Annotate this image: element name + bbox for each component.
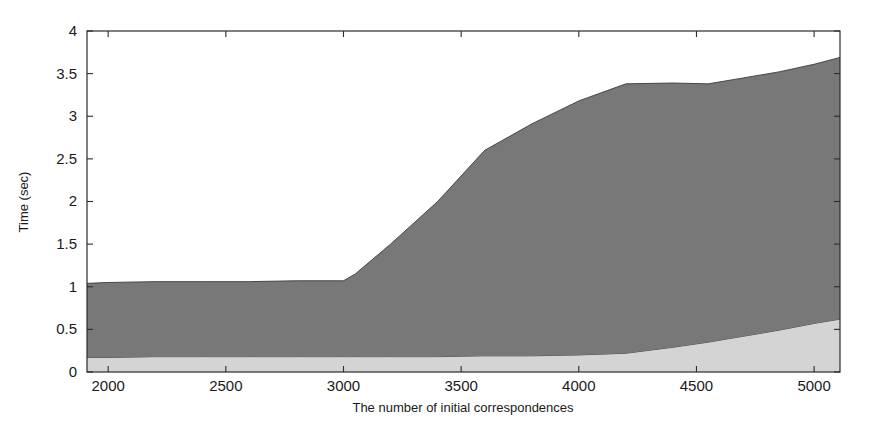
y-tick-label: 2.5 — [56, 150, 77, 167]
x-tick-label: 4000 — [562, 377, 595, 394]
x-tick-label: 2500 — [209, 377, 242, 394]
y-tick-label: 0.5 — [56, 320, 77, 337]
x-tick-label: 4500 — [680, 377, 713, 394]
y-tick-label: 4 — [69, 22, 77, 39]
chart-figure: 00.511.522.533.5420002500300035004000450… — [0, 0, 875, 433]
x-tick-label: 3000 — [327, 377, 360, 394]
stacked-area-chart: 00.511.522.533.5420002500300035004000450… — [0, 0, 875, 433]
y-tick-label: 0 — [69, 363, 77, 380]
y-tick-label: 3.5 — [56, 65, 77, 82]
y-tick-label: 2 — [69, 192, 77, 209]
x-tick-label: 5000 — [797, 377, 830, 394]
x-axis-title: The number of initial correspondences — [352, 400, 574, 415]
y-tick-label: 1 — [69, 278, 77, 295]
y-tick-label: 1.5 — [56, 235, 77, 252]
x-tick-label: 3500 — [444, 377, 477, 394]
x-tick-label: 2000 — [91, 377, 124, 394]
y-tick-label: 3 — [69, 107, 77, 124]
y-axis-title: Time (sec) — [16, 172, 31, 233]
